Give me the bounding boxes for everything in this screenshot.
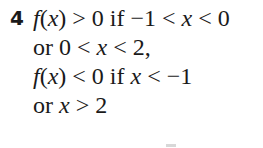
answer-line-2: or 0 < x < 2, bbox=[33, 33, 230, 62]
answer-line-1: f(x) > 0 if −1 < x < 0 bbox=[33, 4, 230, 33]
answer-line-4: or x > 2 bbox=[33, 91, 230, 120]
cropped-text-fragment bbox=[166, 144, 176, 147]
exercise-number: 4 bbox=[10, 4, 24, 33]
answer-text: f(x) > 0 if −1 < x < 0 or 0 < x < 2, f(x… bbox=[33, 4, 230, 120]
answer-line-3: f(x) < 0 if x < −1 bbox=[33, 62, 230, 91]
